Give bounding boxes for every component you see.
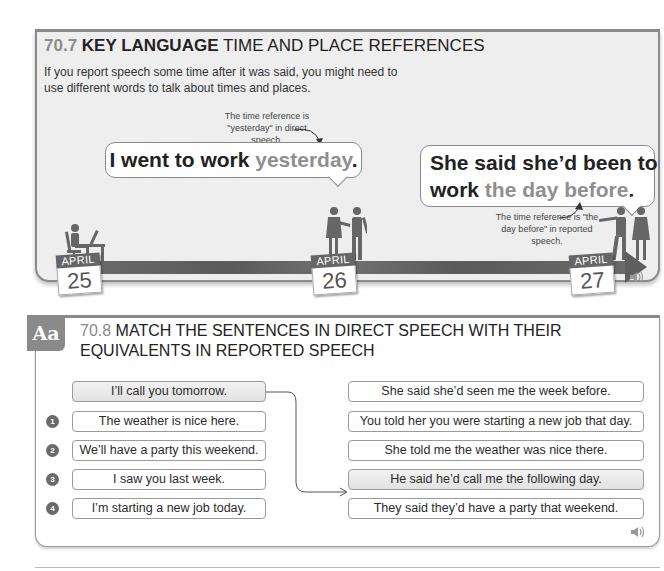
matching-exercise-panel: Aa 70.8 MATCH THE SENTENCES IN DIRECT SP… (35, 315, 660, 547)
calendar-april-27: APRIL 27 (569, 253, 616, 296)
calendar-april-25: APRIL 25 (56, 253, 103, 296)
section-number: 70.7 (44, 36, 77, 55)
bubble-text: I went to work (109, 148, 255, 171)
example-direct-sentence[interactable]: I’ll call you tomorrow. (72, 381, 266, 402)
reported-sentence-matched[interactable]: He said he’d call me the following day. (348, 469, 644, 490)
reported-sentence[interactable]: You told her you were starting a new job… (348, 411, 644, 432)
reported-sentence[interactable]: She told me the weather was nice there. (348, 440, 644, 461)
item-number: 3 (46, 473, 59, 486)
calendar-day: 25 (57, 265, 103, 295)
annotation-arrow-icon (557, 202, 587, 224)
item-number: 2 (46, 444, 59, 457)
vocabulary-badge: Aa (27, 315, 65, 351)
item-number: 4 (46, 502, 59, 515)
item-number: 1 (46, 415, 59, 428)
divider (35, 567, 660, 568)
speaker-icon[interactable] (629, 270, 645, 284)
speech-bubble-direct: I went to work yesterday. (105, 142, 362, 178)
calendar-day: 26 (312, 265, 358, 295)
section-heading: 70.7 KEY LANGUAGE TIME AND PLACE REFEREN… (44, 36, 485, 56)
direct-sentence-2[interactable]: We’ll have a party this weekend. (72, 440, 266, 461)
exercise-number: 70.8 (80, 322, 111, 339)
direct-sentence-4[interactable]: I’m starting a new job today. (72, 498, 266, 519)
speech-bubble-reported: She said she’d been to work the day befo… (420, 145, 655, 207)
exercise-heading: 70.8 MATCH THE SENTENCES IN DIRECT SPEEC… (80, 321, 640, 361)
example-connector-arrow-icon (266, 388, 350, 498)
bubble-text: work (430, 178, 485, 201)
exercise-title: MATCH THE SENTENCES IN DIRECT SPEECH WIT… (80, 322, 562, 359)
reported-sentence[interactable]: They said they’d have a party that weeke… (348, 498, 644, 519)
intro-text: If you report speech some time after it … (44, 64, 404, 96)
speaker-icon[interactable] (630, 525, 646, 539)
calendar-april-26: APRIL 26 (311, 253, 358, 296)
direct-sentence-1[interactable]: The weather is nice here. (72, 411, 266, 432)
calendar-day: 27 (570, 265, 616, 295)
bubble-line1: She said she’d been to (430, 149, 654, 176)
heading-bold: KEY LANGUAGE (82, 36, 219, 55)
reported-sentence[interactable]: She said she’d seen me the week before. (348, 381, 644, 402)
heading-rest: TIME AND PLACE REFERENCES (223, 36, 485, 55)
bubble-end: . (352, 148, 358, 171)
key-language-panel: 70.7 KEY LANGUAGE TIME AND PLACE REFEREN… (35, 29, 660, 282)
direct-sentence-3[interactable]: I saw you last week. (72, 469, 266, 490)
bubble-highlight: the day before (485, 178, 629, 201)
